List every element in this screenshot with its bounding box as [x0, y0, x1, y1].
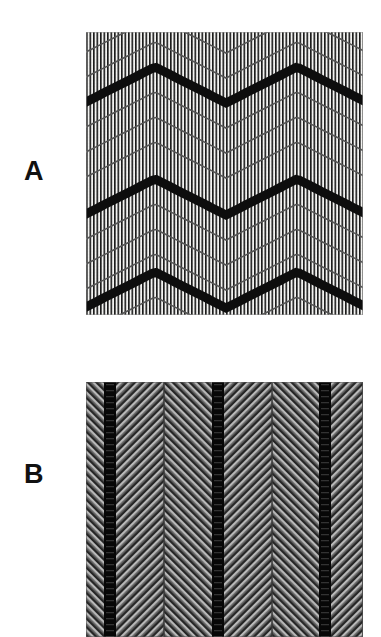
warp-band-fleck — [106, 618, 114, 619]
warp-band-fleck — [321, 408, 329, 409]
warp-band-fleck — [214, 486, 222, 487]
warp-band-fleck — [106, 564, 114, 565]
warp-band-fleck — [321, 390, 329, 391]
warp-band-fleck — [106, 486, 114, 487]
figure-root: A B — [0, 0, 381, 637]
warp-band-fleck — [106, 558, 114, 559]
warp-band-fleck — [106, 576, 114, 577]
panel-a-weave-graphic — [86, 32, 363, 315]
warp-band-fleck — [321, 474, 329, 475]
warp-band-fleck — [106, 420, 114, 421]
warp-band-fleck — [106, 600, 114, 601]
warp-band-fleck — [321, 570, 329, 571]
warp-band-fleck — [321, 438, 329, 439]
warp-band-fleck — [214, 522, 222, 523]
warp-band-fleck — [214, 408, 222, 409]
warp-band-fleck — [106, 498, 114, 499]
warp-band-fleck — [106, 450, 114, 451]
warp-band-fleck — [321, 456, 329, 457]
warp-band-fleck — [106, 402, 114, 403]
warp-band-fleck — [321, 486, 329, 487]
warp-band-fleck — [321, 480, 329, 481]
warp-band-fleck — [214, 624, 222, 625]
warp-band-fleck — [106, 630, 114, 631]
warp-band-fleck — [214, 390, 222, 391]
warp-band-fleck — [321, 594, 329, 595]
warp-band-fleck — [321, 582, 329, 583]
warp-band-fleck — [106, 414, 114, 415]
warp-band-fleck — [106, 552, 114, 553]
warp-band-fleck — [321, 498, 329, 499]
warp-band-fleck — [214, 438, 222, 439]
warp-band-fleck — [106, 480, 114, 481]
warp-band-fleck — [321, 492, 329, 493]
warp-band-fleck — [106, 462, 114, 463]
warp-band-fleck — [106, 528, 114, 529]
warp-band-fleck — [321, 528, 329, 529]
warp-band-fleck — [106, 390, 114, 391]
warp-band-fleck — [106, 612, 114, 613]
warp-band-fleck — [214, 462, 222, 463]
warp-band-fleck — [106, 474, 114, 475]
warp-band-fleck — [214, 516, 222, 517]
warp-band-fleck — [321, 462, 329, 463]
warp-band-fleck — [214, 474, 222, 475]
warp-band-fleck — [214, 384, 222, 385]
warp-band-fleck — [106, 456, 114, 457]
twill-seam — [271, 382, 273, 637]
warp-band-fleck — [214, 498, 222, 499]
warp-band-fleck — [106, 426, 114, 427]
warp-band-fleck — [321, 450, 329, 451]
warp-band-fleck — [321, 426, 329, 427]
warp-band-fleck — [214, 396, 222, 397]
warp-band-fleck — [214, 420, 222, 421]
warp-band-fleck — [214, 600, 222, 601]
warp-band-fleck — [214, 594, 222, 595]
warp-band-fleck — [214, 480, 222, 481]
twill-seam — [163, 382, 165, 637]
warp-band-fleck — [106, 510, 114, 511]
warp-band-fleck — [106, 492, 114, 493]
warp-band-fleck — [321, 624, 329, 625]
warp-band-fleck — [106, 408, 114, 409]
warp-band-fleck — [321, 402, 329, 403]
warp-band-fleck — [321, 504, 329, 505]
warp-band-fleck — [214, 426, 222, 427]
warp-band-fleck — [321, 540, 329, 541]
warp-band-fleck — [321, 432, 329, 433]
warp-band-fleck — [214, 552, 222, 553]
warp-band-fleck — [106, 384, 114, 385]
warp-band-fleck — [321, 522, 329, 523]
warp-band-fleck — [214, 528, 222, 529]
warp-band-fleck — [321, 534, 329, 535]
warp-band-fleck — [214, 468, 222, 469]
warp-band-fleck — [214, 402, 222, 403]
warp-band-fleck — [214, 612, 222, 613]
warp-band-fleck — [214, 450, 222, 451]
warp-band-fleck — [214, 432, 222, 433]
warp-band-fleck — [214, 414, 222, 415]
warp-band-fleck — [106, 624, 114, 625]
warp-band-fleck — [321, 552, 329, 553]
warp-band-fleck — [106, 594, 114, 595]
warp-band-fleck — [214, 564, 222, 565]
warp-band-fleck — [106, 546, 114, 547]
warp-band-fleck — [106, 570, 114, 571]
warp-band-fleck — [214, 582, 222, 583]
warp-band-fleck — [214, 588, 222, 589]
warp-band-fleck — [106, 432, 114, 433]
warp-band-fleck — [321, 516, 329, 517]
warp-band-fleck — [321, 396, 329, 397]
warp-band-fleck — [321, 510, 329, 511]
warp-band-fleck — [106, 438, 114, 439]
warp-band-fleck — [321, 612, 329, 613]
warp-band-fleck — [214, 618, 222, 619]
warp-band-fleck — [214, 570, 222, 571]
warp-band-fleck — [106, 522, 114, 523]
warp-band-fleck — [214, 546, 222, 547]
warp-band-fleck — [321, 618, 329, 619]
twill-column — [272, 382, 325, 637]
warp-band-fleck — [321, 384, 329, 385]
panel-a-micrograph — [86, 32, 363, 315]
warp-band-fleck — [106, 396, 114, 397]
